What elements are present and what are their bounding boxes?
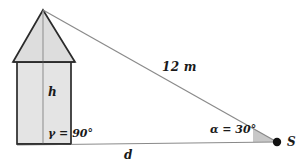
alpha-angle-label: α = 30° xyxy=(210,124,256,135)
hypotenuse-label: 12 m xyxy=(162,61,197,73)
gamma-angle-label: γ = 90° xyxy=(48,128,93,139)
geometry-figure: h d 12 m γ = 90° α = 30° S xyxy=(0,0,305,167)
observer-point-label: S xyxy=(287,136,296,148)
height-label: h xyxy=(48,86,57,98)
tower-roof xyxy=(13,10,75,62)
diagram-canvas xyxy=(0,0,305,167)
observer-point xyxy=(273,138,281,146)
distance-label: d xyxy=(124,149,132,161)
